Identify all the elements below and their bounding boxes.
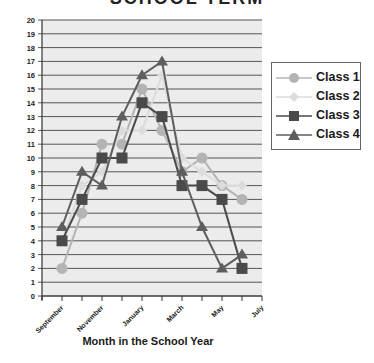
y-tick-label: 16 <box>27 71 35 80</box>
x-tick-label: March <box>165 304 185 324</box>
y-tick-label: 20 <box>27 16 35 25</box>
y-tick-label: 14 <box>27 99 36 108</box>
data-point <box>57 263 68 274</box>
legend-item-class-3: Class 3 <box>272 107 362 125</box>
legend-item-class-1: Class 1 <box>272 69 362 87</box>
legend-item-class-2: Class 2 <box>272 88 362 106</box>
x-tick-label: November <box>76 304 105 333</box>
y-tick-label: 10 <box>27 154 35 163</box>
data-point <box>137 97 148 108</box>
legend-label: Class 4 <box>316 127 360 141</box>
data-point <box>97 153 108 164</box>
y-tick-label: 13 <box>27 113 35 122</box>
data-point <box>237 263 248 274</box>
chart-legend: Class 1 Class 2 Class 3 Class 4 <box>271 62 361 150</box>
y-tick-label: 12 <box>27 126 35 135</box>
legend-label: Class 1 <box>316 70 360 84</box>
y-tick-label: 3 <box>31 251 35 260</box>
y-tick-label: 2 <box>31 264 35 273</box>
data-point <box>117 153 128 164</box>
data-point <box>157 111 168 122</box>
y-tick-label: 11 <box>27 140 35 149</box>
line-chart: 01234567891011121314151617181920Septembe… <box>0 0 374 363</box>
data-point <box>197 153 208 164</box>
data-point <box>197 180 208 191</box>
y-tick-label: 5 <box>31 223 35 232</box>
y-tick-label: 4 <box>31 237 36 246</box>
y-tick-label: 1 <box>31 278 35 287</box>
y-tick-label: 8 <box>31 182 35 191</box>
legend-item-class-4: Class 4 <box>272 126 362 144</box>
y-tick-label: 9 <box>31 168 35 177</box>
data-point <box>217 194 228 205</box>
y-tick-label: 7 <box>31 195 35 204</box>
x-tick-label: May <box>210 304 225 319</box>
y-tick-label: 15 <box>27 85 35 94</box>
data-point <box>237 194 248 205</box>
square-marker-icon <box>276 107 316 125</box>
data-point <box>97 139 108 150</box>
diamond-marker-icon <box>276 88 316 106</box>
legend-label: Class 3 <box>316 108 360 122</box>
y-tick-label: 19 <box>27 30 35 39</box>
x-tick-label: September <box>34 304 65 335</box>
triangle-marker-icon <box>276 126 316 144</box>
y-tick-label: 0 <box>31 292 35 301</box>
y-tick-label: 18 <box>27 44 35 53</box>
data-point <box>77 194 88 205</box>
data-point <box>57 235 68 246</box>
legend-label: Class 2 <box>316 89 360 103</box>
x-tick-label: January <box>121 304 146 329</box>
x-axis-title: Month in the School Year <box>82 335 214 347</box>
circle-marker-icon <box>276 69 316 87</box>
x-tick-label: July <box>250 304 266 320</box>
y-tick-label: 6 <box>31 209 35 218</box>
y-tick-label: 17 <box>27 57 35 66</box>
